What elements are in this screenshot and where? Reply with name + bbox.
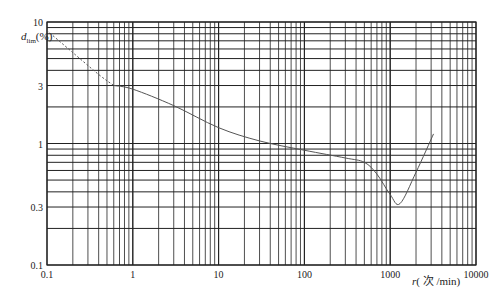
x-axis-label: r( 次 /min) bbox=[412, 274, 461, 288]
data-curves bbox=[47, 31, 434, 205]
y-tick-label: 1 bbox=[38, 139, 43, 150]
grid-lines bbox=[47, 22, 476, 265]
x-tick-label: 10000 bbox=[464, 269, 489, 280]
x-tick-label: 1000 bbox=[380, 269, 400, 280]
x-tick-label: 10 bbox=[214, 269, 224, 280]
log-log-chart: 0.1110100100010000 0.10.31310 dlim(%) r(… bbox=[0, 0, 502, 301]
y-axis-ticks: 0.10.31310 bbox=[31, 17, 44, 271]
dlim-curve bbox=[114, 86, 434, 205]
y-tick-label: 3 bbox=[38, 81, 43, 92]
y-tick-label: 10 bbox=[33, 17, 43, 28]
y-tick-label: 0.3 bbox=[31, 202, 44, 213]
x-tick-label: 1 bbox=[130, 269, 135, 280]
x-tick-label: 100 bbox=[297, 269, 312, 280]
y-axis-label: dlim(%) bbox=[21, 30, 53, 45]
dashed-extrapolation-curve bbox=[47, 31, 114, 86]
y-tick-label: 0.1 bbox=[31, 260, 44, 271]
